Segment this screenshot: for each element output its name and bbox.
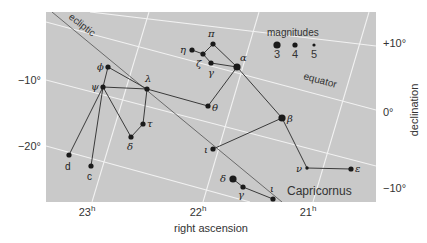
star-label-gamma: γ — [208, 67, 214, 78]
x-axis-ticks: 23h22h21h — [79, 204, 317, 218]
star-psi — [100, 84, 105, 89]
star-nu — [305, 166, 308, 169]
star-tau — [140, 121, 145, 126]
x-tick-21h: 21h — [300, 204, 317, 218]
star-label-epsilon: ε — [355, 163, 360, 174]
star-label-eta: η — [180, 44, 186, 55]
star-label-zeta: ζ — [196, 58, 202, 69]
legend-dot-mag-4 — [292, 42, 297, 47]
star-label-beta: β — [286, 113, 293, 124]
y-axis-ticks-right: +10°0°−10° — [383, 37, 406, 194]
star-label-tau: τ — [147, 118, 153, 129]
legend-dot-mag-5 — [312, 43, 315, 46]
constellation-label-capricornus: Capricornus — [287, 184, 352, 198]
legend-label-mag-4: 4 — [292, 48, 298, 60]
star-alpha — [233, 63, 240, 70]
y-tick-right-0: +10° — [383, 37, 406, 49]
star-label-psi: ψ — [91, 81, 99, 92]
star-zeta — [200, 51, 205, 56]
star-label-gamma-cap: γ — [238, 189, 244, 200]
star-iota-cap — [270, 196, 275, 201]
star-label-delta: δ — [127, 141, 133, 152]
star-eta — [189, 47, 194, 52]
star-label-theta: θ — [212, 102, 218, 113]
y-tick-right-1: 0° — [383, 106, 394, 118]
star-gamma — [208, 60, 213, 65]
star-d — [66, 152, 71, 157]
star-label-d: d — [65, 161, 71, 172]
star-label-pi: π — [207, 28, 215, 39]
y-axis-label: declination — [408, 84, 420, 137]
y-tick-left-0: −10° — [18, 74, 41, 86]
star-iota — [210, 146, 215, 151]
star-label-iota: ι — [204, 144, 208, 155]
star-lambda — [144, 86, 149, 91]
star-delta-cap — [229, 175, 236, 182]
star-pi — [210, 41, 215, 46]
x-axis-label: right ascension — [174, 222, 248, 234]
y-tick-right-2: −10° — [383, 182, 406, 194]
star-chart: ϕψλτδdcηζπγαθβινεδγι ecliptic equator Ca… — [0, 0, 427, 243]
star-label-nu: ν — [296, 163, 302, 174]
y-tick-left-1: −20° — [18, 140, 41, 152]
star-label-c: c — [87, 171, 92, 182]
legend-title: magnitudes — [267, 27, 319, 38]
star-epsilon — [348, 166, 353, 171]
x-tick-23h: 23h — [79, 204, 96, 218]
star-label-iota-cap: ι — [270, 183, 274, 194]
legend-label-mag-3: 3 — [274, 48, 280, 60]
star-label-delta-cap: δ — [220, 173, 226, 184]
star-label-lambda: λ — [144, 73, 151, 84]
star-phi — [105, 64, 110, 69]
legend-label-mag-5: 5 — [311, 48, 317, 60]
star-label-alpha: α — [240, 52, 247, 63]
star-c — [88, 163, 93, 168]
y-axis-ticks-left: −10°−20° — [18, 74, 41, 152]
star-delta — [128, 134, 133, 139]
star-theta — [205, 103, 210, 108]
x-tick-22h: 22h — [190, 204, 207, 218]
star-label-phi: ϕ — [97, 61, 104, 72]
star-beta — [278, 114, 285, 121]
